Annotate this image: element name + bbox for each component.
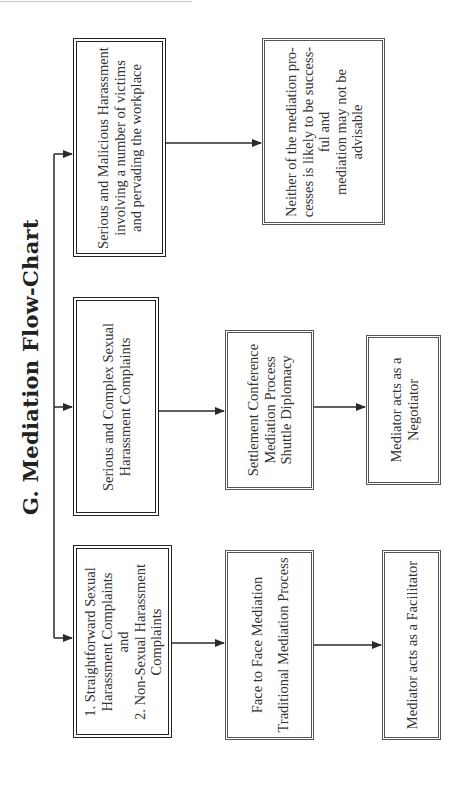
box-malicious-harassment: Serious and Malicious Harassment involvi…	[73, 38, 166, 257]
box-complex-harassment: Serious and Complex Sexual Harassment Co…	[73, 297, 159, 516]
box-mediator-facilitator: Mediator acts as a Facilitator	[382, 550, 441, 740]
chart-title: G. Mediation Flow-Chart	[18, 219, 43, 515]
box-straightforward-harassment-text: 1. Straightforward Sexual Harassment Com…	[81, 564, 164, 720]
box-settlement-conference-text: Settlement Conference Mediation Process …	[245, 344, 295, 476]
box-mediation-not-advisable: Neither of the mediation pro- cesses is …	[262, 38, 385, 225]
box-mediation-not-advisable-text: Neither of the mediation pro- cesses is …	[282, 46, 365, 216]
box-mediator-negotiator-text: Mediator acts as a Negotiator	[387, 357, 420, 462]
box-face-to-face-mediation-text: Face to Face Mediation Traditional Media…	[249, 557, 291, 732]
box-settlement-conference: Settlement Conference Mediation Process …	[225, 330, 314, 490]
line-gap	[265, 557, 274, 732]
box-straightforward-harassment: 1. Straightforward Sexual Harassment Com…	[73, 545, 172, 738]
box-malicious-harassment-text: Serious and Malicious Harassment involvi…	[95, 47, 145, 249]
box-face-to-face-mediation: Face to Face Mediation Traditional Media…	[225, 550, 314, 740]
box-mediator-facilitator-text: Mediator acts as a Facilitator	[403, 561, 420, 729]
box-mediator-negotiator: Mediator acts as a Negotiator	[366, 335, 441, 485]
box-complex-harassment-text: Serious and Complex Sexual Harassment Co…	[100, 323, 133, 491]
